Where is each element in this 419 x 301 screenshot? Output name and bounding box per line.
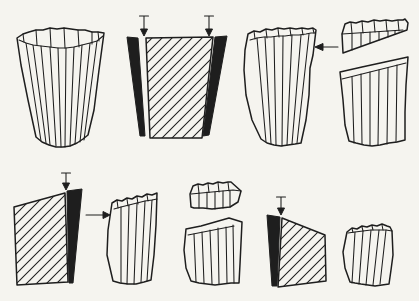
short-column-flutes bbox=[121, 200, 152, 284]
short-base-flutes bbox=[194, 225, 234, 284]
figure-short-intact-specimen bbox=[107, 193, 157, 284]
figure-section-with-right-wedge bbox=[14, 173, 82, 285]
shear-base-outline bbox=[340, 57, 408, 146]
shear-base-flutes bbox=[352, 65, 397, 145]
hatched-section bbox=[146, 37, 213, 138]
figure-sheared-specimen bbox=[340, 19, 408, 146]
column-flutes bbox=[257, 34, 309, 146]
figure-lateral-load-arrow bbox=[86, 212, 110, 219]
wood-failure-diagram bbox=[0, 0, 419, 301]
column-outline bbox=[244, 28, 316, 146]
cup-flutes bbox=[26, 41, 97, 147]
figure-short-sheared-specimen bbox=[184, 182, 242, 285]
right-arrow-icon bbox=[86, 212, 110, 219]
figure-section-with-left-wedge bbox=[267, 197, 326, 287]
right-wedge bbox=[67, 189, 82, 283]
diagram-page bbox=[0, 0, 419, 301]
figure-tilted-specimen bbox=[343, 224, 393, 286]
down-arrow-icon bbox=[62, 173, 71, 190]
hatched-section bbox=[14, 193, 68, 285]
down-arrow-icon bbox=[205, 16, 214, 36]
left-arrow-icon bbox=[315, 44, 338, 51]
figure-intact-cup-specimen bbox=[17, 28, 104, 147]
down-arrow-icon bbox=[277, 197, 286, 215]
shear-cap-front-rim bbox=[342, 30, 403, 34]
hatched-section bbox=[278, 218, 326, 287]
figure-compressed-cross-section bbox=[127, 16, 227, 138]
cup-inner-rim bbox=[19, 36, 103, 48]
left-wedge bbox=[127, 37, 145, 136]
tilted-column-flutes bbox=[352, 230, 386, 285]
figure-specimen-with-lateral-load bbox=[244, 28, 338, 146]
down-arrow-icon bbox=[140, 16, 149, 36]
